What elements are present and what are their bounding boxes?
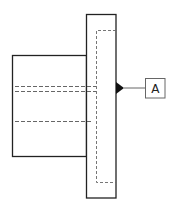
datum-triangle-icon [116, 82, 124, 94]
datum-label: A [151, 82, 160, 96]
flange-body [87, 15, 117, 199]
drawing-canvas: A [0, 0, 173, 209]
hub-body [13, 56, 87, 157]
